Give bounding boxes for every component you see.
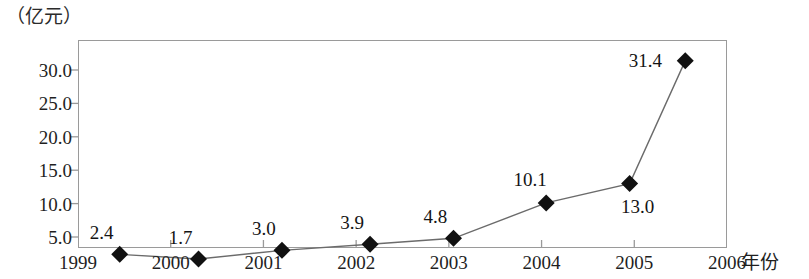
y-axis-tick-label: 15.0: [6, 161, 72, 180]
data-point-marker: [538, 194, 555, 211]
x-axis-title: 年份: [741, 252, 779, 274]
x-axis-tick-label: 1999: [59, 252, 97, 274]
data-point-marker: [445, 230, 462, 247]
y-axis-tick-label: 20.0: [6, 127, 72, 146]
x-axis-tick-label: 2002: [337, 252, 375, 274]
y-axis-tick-label: 25.0: [6, 94, 72, 113]
data-point-marker: [677, 52, 694, 69]
data-point-markers: [111, 52, 694, 267]
data-point-marker: [111, 246, 128, 263]
y-axis-tick-label: 5.0: [6, 228, 72, 247]
data-point-value-label: 2.4: [90, 223, 114, 242]
data-series-line: [120, 61, 686, 259]
data-point-value-label: 3.9: [340, 213, 364, 232]
data-point-marker: [621, 175, 638, 192]
data-point-value-label: 31.4: [629, 50, 662, 69]
data-point-value-label: 13.0: [621, 196, 654, 215]
chart-figure: （亿元） 5.010.015.020.025.030.0 19992000200…: [0, 0, 809, 279]
data-point-value-label: 3.0: [252, 219, 276, 238]
y-axis-tick-label: 10.0: [6, 194, 72, 213]
data-point-marker: [362, 236, 379, 253]
x-axis-tick-label: 2004: [523, 252, 561, 274]
y-axis-tick-label: 30.0: [6, 61, 72, 80]
x-axis-tick-label: 2003: [430, 252, 468, 274]
data-point-value-label: 1.7: [169, 228, 193, 247]
data-point-value-label: 10.1: [514, 169, 547, 188]
chart-canvas: [0, 0, 809, 279]
y-axis-ticks: [71, 70, 78, 237]
data-point-value-label: 4.8: [424, 207, 448, 226]
x-axis-tick-label: 2000: [152, 252, 190, 274]
x-axis-ticks: [171, 240, 635, 248]
x-axis-tick-label: 2001: [244, 252, 282, 274]
x-axis-tick-label: 2005: [615, 252, 653, 274]
y-axis-tick-labels: 5.010.015.020.025.030.0: [0, 0, 72, 279]
data-point-marker: [190, 251, 207, 268]
